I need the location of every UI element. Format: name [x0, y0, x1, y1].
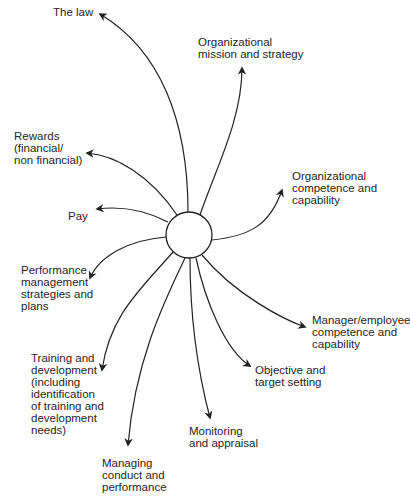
label-perf-mgmt: Performance management strategies and pl…: [21, 264, 93, 312]
arrow-to-monitoring: [190, 258, 210, 418]
arrow-to-law: [100, 14, 188, 212]
label-mission: Organizational mission and strategy: [198, 36, 303, 60]
arrow-to-pay: [97, 208, 168, 222]
arrow-to-mission: [200, 68, 242, 215]
label-pay: Pay: [68, 210, 88, 222]
arrow-to-org-competence: [212, 190, 282, 240]
arrow-to-rewards: [87, 153, 177, 215]
label-mgr-competence: Manager/employee competence and capabili…: [312, 314, 410, 350]
label-conduct: Managing conduct and performance: [102, 457, 167, 493]
label-law: The law: [53, 6, 93, 18]
arrow-to-training: [102, 252, 173, 370]
label-monitoring: Monitoring and appraisal: [189, 425, 258, 449]
arrow-to-objective: [196, 258, 250, 366]
label-rewards: Rewards (financial/ non financial): [14, 130, 82, 166]
arrow-to-mgr-competence: [202, 255, 305, 327]
arrow-to-conduct: [128, 258, 185, 445]
label-training: Training and development (including iden…: [31, 352, 104, 436]
label-objective: Objective and target setting: [255, 364, 325, 388]
label-org-competence: Organizational competence and capability: [292, 170, 377, 206]
center-circle: [166, 212, 212, 258]
